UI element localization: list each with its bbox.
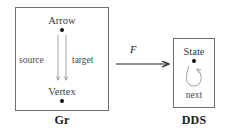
functor-diagram: Arrow Vertex source target F State next (0, 0, 225, 137)
gr-caption: Gr (15, 113, 109, 128)
arrow-node-label: Arrow (15, 15, 109, 27)
target-edge-label: target (72, 55, 93, 66)
arrow-node-dot (60, 28, 64, 32)
functor-label: F (130, 44, 136, 55)
vertex-node: Vertex (15, 86, 109, 103)
vertex-node-label: Vertex (15, 86, 109, 98)
state-node-label: State (173, 46, 215, 58)
arrow-node: Arrow (15, 15, 109, 32)
vertex-node-dot (60, 99, 64, 103)
dds-caption: DDS (168, 113, 220, 128)
source-edge-label: source (19, 55, 44, 66)
state-node-dot (192, 59, 196, 63)
next-loop-label: next (173, 90, 215, 101)
state-node: State (173, 46, 215, 63)
